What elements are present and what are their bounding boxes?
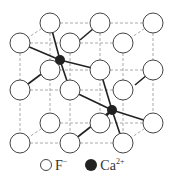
calcium-legend-icon xyxy=(85,159,97,171)
legend: F− Ca2+ xyxy=(40,157,124,174)
fluoride-legend-icon xyxy=(40,159,52,171)
calcium-legend-label: Ca2+ xyxy=(100,157,124,174)
crystal-lattice xyxy=(0,0,171,160)
fluoride-legend-label: F− xyxy=(55,157,67,174)
